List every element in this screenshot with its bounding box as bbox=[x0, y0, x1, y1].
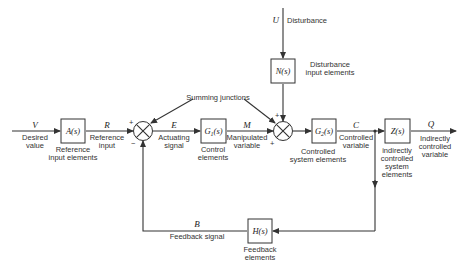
signal-m-symbol: M bbox=[242, 120, 251, 130]
svg-text:G2(s): G2(s) bbox=[315, 126, 333, 137]
summing-junction-1 bbox=[134, 122, 153, 141]
block-g2: G2(s) bbox=[312, 119, 336, 143]
block-a-label-2: input elements bbox=[49, 153, 98, 162]
sj1-plus-sign: + bbox=[129, 118, 134, 127]
signal-u-symbol: U bbox=[273, 15, 280, 25]
signal-r-symbol: R bbox=[103, 120, 110, 130]
block-g2-label-2: system elements bbox=[290, 155, 347, 164]
signal-q-label-3: variable bbox=[422, 150, 448, 159]
signal-b-symbol: B bbox=[194, 219, 200, 229]
sj2-plus-left: + bbox=[270, 139, 275, 148]
block-diagram: A(s) G1(s) G2(s) Z(s) N(s) H(s) + − + + … bbox=[0, 0, 471, 267]
block-n-label-2: input elements bbox=[306, 68, 355, 77]
signal-v-symbol: V bbox=[32, 120, 39, 130]
summing-junction-2 bbox=[274, 122, 293, 141]
signal-e-label-2: signal bbox=[164, 141, 184, 150]
signal-q-symbol: Q bbox=[428, 119, 435, 129]
block-g1-label-2: elements bbox=[198, 153, 229, 162]
svg-text:A(s): A(s) bbox=[65, 126, 80, 136]
svg-text:Z(s): Z(s) bbox=[391, 126, 405, 136]
signal-u-label: Disturbance bbox=[287, 16, 327, 25]
signal-e-symbol: E bbox=[170, 120, 177, 130]
signal-r-label-2: input bbox=[99, 141, 116, 150]
summing-junctions-label: Summing junctions bbox=[186, 93, 250, 102]
block-a: A(s) bbox=[61, 119, 85, 143]
signal-b-label: Feedback signal bbox=[170, 232, 225, 241]
block-h-label-2: elements bbox=[245, 253, 276, 262]
svg-text:G1(s): G1(s) bbox=[204, 126, 222, 137]
block-z: Z(s) bbox=[385, 119, 410, 143]
svg-text:N(s): N(s) bbox=[275, 66, 291, 76]
signal-c-symbol: C bbox=[353, 120, 360, 130]
signal-v-label-2: value bbox=[26, 141, 44, 150]
svg-text:H(s): H(s) bbox=[251, 226, 267, 236]
signal-c-label-2: variable bbox=[343, 141, 369, 150]
block-n: N(s) bbox=[271, 59, 295, 83]
sj2-plus-top: + bbox=[275, 111, 280, 120]
block-g1: G1(s) bbox=[201, 119, 226, 143]
block-h: H(s) bbox=[248, 219, 272, 243]
signal-b-arrow bbox=[143, 141, 247, 231]
sj1-minus-sign: − bbox=[131, 139, 136, 148]
block-z-label-4: elements bbox=[382, 170, 413, 179]
signal-m-label-2: variable bbox=[234, 141, 260, 150]
